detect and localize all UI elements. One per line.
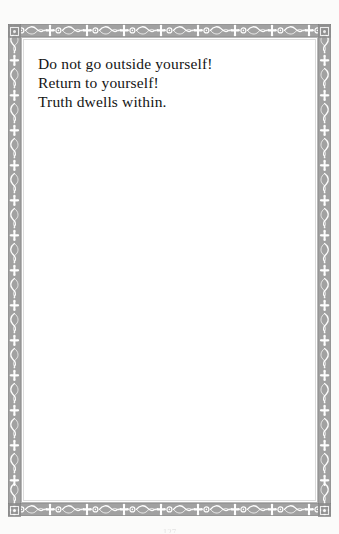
book-page: Do not go outside yourself! Return to yo… [0, 0, 339, 534]
verse-line: Do not go outside yourself! [38, 54, 305, 73]
ornamental-frame: Do not go outside yourself! Return to yo… [8, 24, 331, 516]
border-band-left [8, 24, 21, 516]
border-band-top [8, 24, 331, 37]
verse-line: Truth dwells within. [38, 92, 305, 111]
verse-text-block: Do not go outside yourself! Return to yo… [38, 54, 305, 112]
border-corner-top-left [8, 24, 21, 37]
border-corner-bottom-left [8, 503, 21, 516]
border-corner-top-right [318, 24, 331, 37]
border-corner-bottom-right [318, 503, 331, 516]
page-number: 127 [0, 527, 339, 533]
verse-line: Return to yourself! [38, 73, 305, 92]
border-band-bottom [8, 503, 331, 516]
border-band-right [318, 24, 331, 516]
